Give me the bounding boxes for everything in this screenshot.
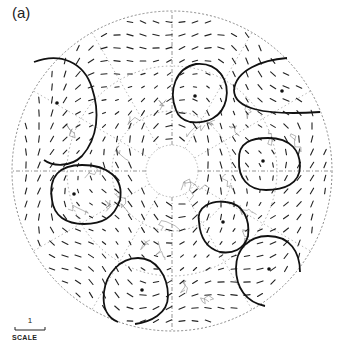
vector-tick <box>154 73 158 75</box>
vector-tick <box>286 149 287 155</box>
contour-center-dot <box>280 89 284 93</box>
vector-tick <box>167 99 171 102</box>
vector-tick <box>271 72 276 76</box>
vector-tick <box>64 71 66 77</box>
vector-tick <box>232 46 237 51</box>
vector-tick <box>102 100 106 101</box>
vector-tick <box>220 228 222 232</box>
vector-tick <box>259 45 261 51</box>
contour-center-dot <box>261 159 265 163</box>
vector-tick <box>75 280 80 283</box>
vector-tick <box>101 34 106 37</box>
vector-tick <box>231 295 237 296</box>
vector-tick <box>88 59 93 63</box>
vector-tick <box>205 281 211 283</box>
vector-tick <box>64 84 67 90</box>
vector-tick <box>247 189 248 193</box>
vector-tick <box>103 137 105 141</box>
vector-tick <box>90 216 93 218</box>
vector-tick <box>154 228 158 232</box>
vector-tick <box>258 216 261 219</box>
vector-tick <box>258 71 261 77</box>
vector-tick <box>63 150 67 154</box>
vector-tick <box>128 99 131 101</box>
vector-tick <box>167 268 171 270</box>
vector-tick <box>75 255 81 257</box>
vector-tick <box>218 307 224 309</box>
vector-tick <box>192 294 198 296</box>
vector-tick <box>310 162 313 167</box>
vector-tick <box>50 241 55 245</box>
vector-tick <box>101 47 107 49</box>
vector-tick <box>62 255 68 257</box>
vector-tick <box>116 162 119 168</box>
vector-tick <box>154 137 158 142</box>
vector-tick <box>142 136 144 142</box>
vector-tick <box>51 214 52 220</box>
vector-tick <box>153 282 158 283</box>
vector-tick <box>270 99 276 102</box>
vector-tick <box>208 149 209 155</box>
vector-tick <box>103 112 106 113</box>
vector-tick <box>90 190 92 193</box>
polar-projection-map <box>0 0 338 347</box>
vector-tick <box>155 86 158 88</box>
vector-tick <box>273 163 274 167</box>
vector-tick <box>141 98 144 101</box>
vector-tick <box>297 189 301 194</box>
vector-tick <box>115 112 118 115</box>
vector-tick <box>311 201 313 207</box>
vector-tick <box>324 162 326 167</box>
vector-tick <box>38 188 41 194</box>
vector-tick <box>166 216 172 219</box>
vector-tick <box>129 123 131 129</box>
vector-tick <box>284 228 289 232</box>
vector-tick <box>284 189 288 193</box>
vector-tick <box>193 123 197 128</box>
vector-tick <box>38 175 41 181</box>
vector-tick <box>205 34 211 36</box>
vector-tick <box>129 267 132 271</box>
vector-tick <box>153 294 159 296</box>
vector-tick <box>50 136 53 141</box>
vector-tick <box>258 229 262 231</box>
meridian <box>195 184 311 251</box>
vector-tick <box>64 176 66 181</box>
contour-center-dot <box>267 267 271 271</box>
vector-tick <box>77 202 80 205</box>
vector-tick <box>102 254 105 258</box>
vector-tick <box>246 163 249 167</box>
vector-tick <box>270 267 275 271</box>
vector-tick <box>284 202 289 206</box>
vector-tick <box>166 229 172 231</box>
vector-tick <box>129 162 132 168</box>
contour-c7 <box>236 236 300 306</box>
vector-tick <box>39 136 40 142</box>
vector-tick <box>154 242 158 245</box>
vector-tick <box>103 125 106 128</box>
vector-tick <box>127 34 133 36</box>
vector-tick <box>89 112 93 113</box>
vector-tick <box>259 203 261 206</box>
vector-tick <box>129 254 131 257</box>
vector-tick <box>192 308 198 309</box>
vector-tick <box>26 175 27 181</box>
vector-tick <box>140 281 145 283</box>
vector-tick <box>38 240 40 245</box>
vector-tick <box>142 255 144 257</box>
vector-tick <box>142 228 145 233</box>
vector-tick <box>283 99 289 102</box>
contour-c8 <box>104 258 168 324</box>
vector-tick <box>270 85 275 88</box>
vector-tick <box>63 137 67 141</box>
scale-label: SCALE <box>12 334 37 341</box>
vector-tick <box>194 136 196 142</box>
vector-tick <box>77 189 78 193</box>
vector-tick <box>50 227 53 233</box>
vector-tick <box>219 255 222 257</box>
vector-tick <box>154 98 157 102</box>
vector-tick <box>129 149 130 155</box>
vector-tick <box>153 60 158 61</box>
vector-tick <box>311 136 313 142</box>
vector-tick <box>115 292 119 297</box>
